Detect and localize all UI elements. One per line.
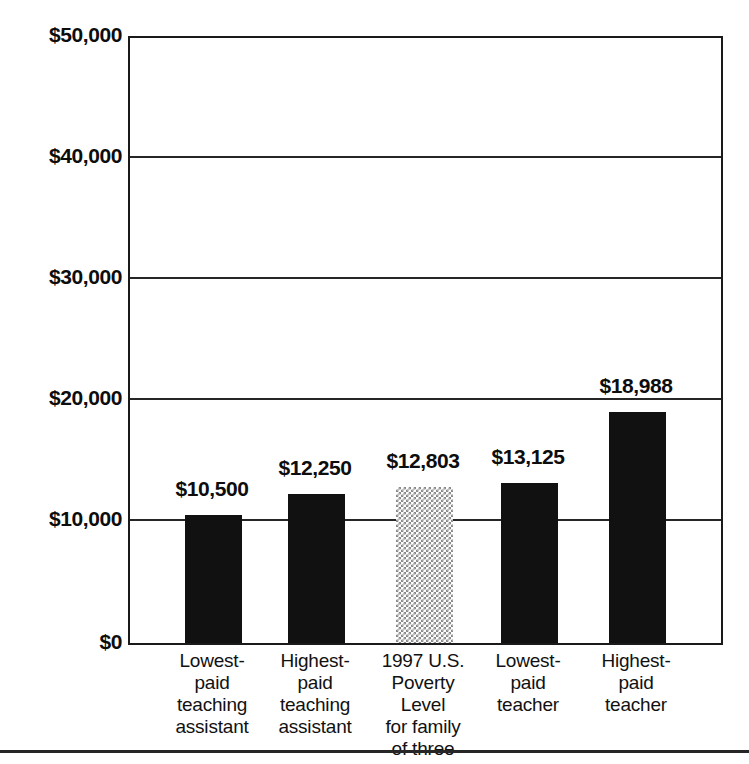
gridline-20000 (130, 398, 721, 400)
y-tick-label: $20,000 (2, 386, 122, 410)
y-tick-label: $0 (2, 630, 122, 654)
bar-value-label: $10,500 (128, 477, 296, 501)
bar-highest-paid-teaching-assistant[interactable] (288, 494, 345, 643)
bar-1997-us-poverty-level[interactable] (396, 487, 453, 643)
bar-highest-paid-teacher[interactable] (609, 412, 666, 643)
x-label-line: Highest- (552, 650, 720, 672)
x-label-highest-paid-teacher: Highest- paid teacher (552, 650, 720, 716)
y-tick-label: $40,000 (2, 144, 122, 168)
y-tick-label: $30,000 (2, 265, 122, 289)
y-tick-label: $10,000 (2, 507, 122, 531)
x-label-line: paid (552, 672, 720, 694)
bar-lowest-paid-teaching-assistant[interactable] (185, 515, 242, 643)
x-label-line: of three (339, 738, 507, 760)
bar-chart-figure: Annual earnings $50,000 $40,000 $30,000 … (0, 0, 749, 764)
bottom-divider (0, 750, 749, 753)
bar-lowest-paid-teacher[interactable] (501, 483, 558, 643)
x-label-line: for family (339, 716, 507, 738)
bar-value-label: $13,125 (444, 445, 612, 469)
gridline-30000 (130, 277, 721, 279)
bar-value-label: $18,988 (552, 374, 720, 398)
gridline-40000 (130, 156, 721, 158)
y-tick-label: $50,000 (2, 23, 122, 47)
y-axis-tick-labels: $50,000 $40,000 $30,000 $20,000 $10,000 … (0, 0, 122, 764)
plot-area (128, 36, 723, 645)
x-label-line: teacher (552, 694, 720, 716)
